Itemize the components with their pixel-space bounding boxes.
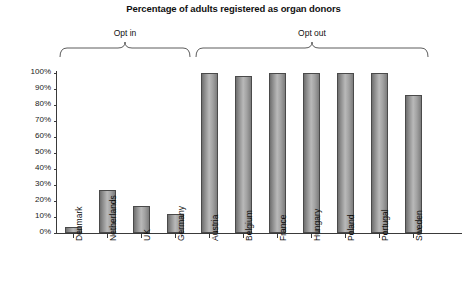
bar[interactable]: [201, 73, 218, 233]
bar[interactable]: [337, 73, 354, 233]
bar-group: UK: [125, 73, 159, 233]
y-axis-tick-label: 90%: [35, 83, 51, 92]
x-axis-tick-label: Netherlands: [108, 195, 118, 241]
y-axis-tick-label: 50%: [35, 147, 51, 156]
x-axis-tick-label: Austria: [210, 215, 220, 241]
plot-area: 0%10%20%30%40%50%60%70%80%90%100%Denmark…: [57, 73, 462, 233]
group-label-opt-in: Opt in: [59, 28, 191, 38]
y-axis-tick-label: 10%: [35, 211, 51, 220]
x-axis-tick-label: France: [278, 215, 288, 241]
bar-group: Hungary: [295, 73, 329, 233]
x-axis-tick-label: Denmark: [74, 207, 84, 241]
x-axis-tick-label: Belgium: [244, 210, 254, 241]
y-axis-tick-label: 0%: [39, 227, 51, 236]
bar-group: Austria: [193, 73, 227, 233]
bar-group: France: [261, 73, 295, 233]
x-axis-tick-label: Germany: [176, 206, 186, 241]
y-axis-tick-label: 40%: [35, 163, 51, 172]
y-axis-tick-label: 60%: [35, 131, 51, 140]
group-bracket-opt-out: [195, 41, 429, 57]
bar-group: Poland: [329, 73, 363, 233]
bar-group: Germany: [159, 73, 193, 233]
x-axis-tick-label: Poland: [346, 215, 356, 241]
x-axis-tick-label: Sweden: [414, 210, 424, 241]
bar-group: Portugal: [363, 73, 397, 233]
bar-group: Denmark: [57, 73, 91, 233]
x-axis-tick-label: UK: [142, 229, 152, 241]
organ-donor-bar-chart: Percentage of adults registered as organ…: [0, 0, 467, 299]
chart-title: Percentage of adults registered as organ…: [0, 3, 467, 14]
y-axis-tick-label: 100%: [31, 67, 51, 76]
x-axis-tick-label: Portugal: [380, 209, 390, 241]
group-label-opt-out: Opt out: [195, 28, 429, 38]
bar-group: Netherlands: [91, 73, 125, 233]
y-axis-tick-label: 80%: [35, 99, 51, 108]
x-axis-tick-label: Hungary: [312, 209, 322, 241]
y-axis-tick-label: 70%: [35, 115, 51, 124]
bar-group: Belgium: [227, 73, 261, 233]
group-bracket-opt-in: [59, 41, 191, 57]
y-axis-tick-label: 30%: [35, 179, 51, 188]
bar[interactable]: [269, 73, 286, 233]
bar-group: Sweden: [397, 73, 431, 233]
y-axis-tick-label: 20%: [35, 195, 51, 204]
